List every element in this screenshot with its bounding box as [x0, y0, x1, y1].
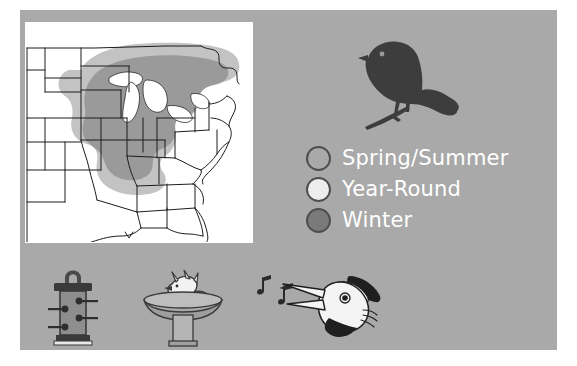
- legend-item-label: Year-Round: [342, 179, 461, 200]
- range-map-svg: [25, 22, 253, 243]
- bird-eye-icon: [380, 52, 385, 57]
- infographic-root: Spring/Summer Year-Round Winter: [0, 0, 577, 366]
- legend: Spring/Summer Year-Round Winter: [306, 143, 536, 236]
- legend-item-spring-summer[interactable]: Spring/Summer: [306, 143, 536, 174]
- tube-bird-feeder-icon: [38, 260, 108, 350]
- legend-item-year-round[interactable]: Year-Round: [306, 174, 536, 205]
- legend-item-label: Spring/Summer: [342, 148, 509, 169]
- circle-swatch-icon: [306, 177, 331, 202]
- bird-activity-icon-strip: [28, 258, 388, 350]
- circle-swatch-icon: [306, 146, 331, 171]
- perched-bird-silhouette-icon: [330, 28, 460, 143]
- music-note-icon: [257, 275, 293, 305]
- singing-bird-head-icon: [253, 270, 388, 348]
- range-map: [25, 22, 253, 243]
- legend-item-winter[interactable]: Winter: [306, 205, 536, 236]
- bird-bath-icon: [128, 270, 238, 350]
- circle-swatch-icon: [306, 208, 331, 233]
- legend-item-label: Winter: [342, 210, 412, 231]
